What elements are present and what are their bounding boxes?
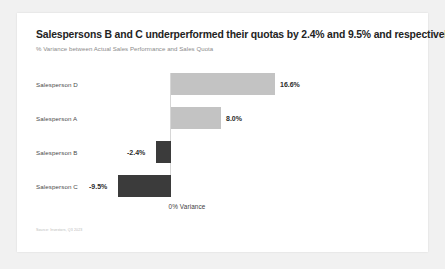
bar-salesperson-c [118, 175, 171, 197]
category-label: Salesperson C [36, 183, 78, 190]
chart-row: Salesperson D 16.6% [17, 73, 428, 95]
source-note: Source: Investors, Q3 2023 [36, 228, 82, 232]
value-label: -2.4% [127, 149, 145, 156]
page-title: Salespersons B and C underperformed thei… [36, 29, 414, 41]
value-label: 16.6% [280, 81, 300, 88]
axis-caption: 0% Variance [127, 203, 247, 210]
bar-chart: Salesperson D 16.6% Salesperson A 8.0% S… [17, 71, 428, 211]
value-label: 8.0% [226, 115, 242, 122]
chart-row: Salesperson A 8.0% [17, 107, 428, 129]
bar-salesperson-a [171, 107, 221, 129]
chart-row: Salesperson B -2.4% [17, 141, 428, 163]
category-label: Salesperson B [36, 149, 78, 156]
value-label: -9.5% [89, 183, 107, 190]
chart-row: Salesperson C -9.5% [17, 175, 428, 197]
bar-salesperson-b [156, 141, 171, 163]
category-label: Salesperson A [36, 115, 77, 122]
bar-salesperson-d [171, 73, 275, 95]
category-label: Salesperson D [36, 81, 78, 88]
slide-card: Salespersons B and C underperformed thei… [17, 13, 428, 252]
page-subtitle: % Variance between Actual Sales Performa… [36, 45, 406, 52]
